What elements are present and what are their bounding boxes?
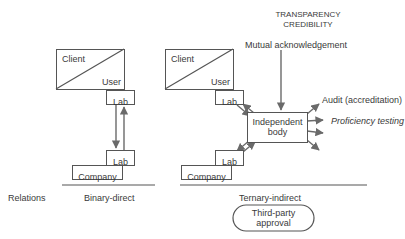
left-user-label: User <box>102 77 121 87</box>
independent-line1: Independent <box>248 117 307 127</box>
ternary-indirect-caption: Ternary-indirect <box>239 193 301 203</box>
approval-line1: Third-party <box>233 208 314 218</box>
left-lab-top-label: Lab <box>113 97 128 107</box>
independent-body-box: Independent body <box>247 112 308 143</box>
relations-label: Relations <box>8 193 46 203</box>
header-transparency: TRANSPARENCY <box>268 10 348 20</box>
mutual-acknowledgement-label: Mutual acknowledgement <box>245 40 347 50</box>
left-lab-top-box: Lab <box>106 90 135 105</box>
right-client-label: Client <box>171 54 194 64</box>
left-client-label: Client <box>62 54 85 64</box>
right-company-label: Company <box>187 172 226 182</box>
left-company-box: Company <box>72 165 123 180</box>
right-lab-top-label: Lab <box>222 97 237 107</box>
right-lab-bottom-box: Lab <box>215 150 244 166</box>
audit-label: Audit (accreditation) <box>322 95 402 105</box>
binary-direct-caption: Binary-direct <box>84 193 135 203</box>
left-company-label: Company <box>78 172 117 182</box>
proficiency-testing-label: Proficiency testing <box>331 116 404 126</box>
right-user-label: User <box>211 77 230 87</box>
independent-line2: body <box>248 127 307 137</box>
left-lab-bottom-box: Lab <box>106 150 135 166</box>
header-credibility: CREDIBILITY <box>268 20 348 30</box>
approval-line2: approval <box>233 218 314 228</box>
right-lab-top-box: Lab <box>215 90 244 105</box>
right-company-box: Company <box>181 165 232 180</box>
